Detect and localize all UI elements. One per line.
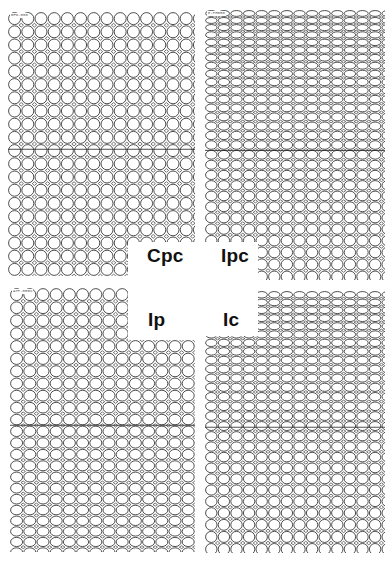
panel-code-ipc: E-PH050 <box>207 11 226 16</box>
panel-code-cpc: BFO-050 <box>10 13 29 18</box>
label-ipc: Ipc <box>221 245 249 267</box>
label-ip: Ip <box>148 309 165 331</box>
panel-cpc-lattice <box>8 12 195 276</box>
label-cpc: Cpc <box>147 245 184 267</box>
panel-ipc-lattice <box>205 10 385 280</box>
label-ic: Ic <box>223 309 239 331</box>
panel-code-ip: ATP-050% <box>12 289 33 294</box>
